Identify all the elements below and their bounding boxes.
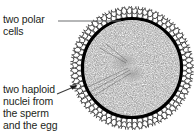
corona-cell bbox=[67, 71, 74, 76]
cytoplasm-region bbox=[84, 20, 180, 116]
corona-cell bbox=[131, 3, 136, 9]
leader-line-haploid-nuclei bbox=[57, 85, 78, 94]
label-two-polar-cells: two polar cells bbox=[3, 13, 45, 37]
corona-cell bbox=[135, 126, 140, 133]
corona-cell bbox=[138, 3, 143, 10]
corona-cell bbox=[128, 127, 133, 133]
corona-cell bbox=[191, 67, 194, 72]
corona-cell bbox=[67, 57, 74, 62]
figure-container: two polar cells two haploid nuclei from … bbox=[0, 0, 194, 135]
corona-cell bbox=[67, 64, 73, 69]
label-two-haploid-nuclei: two haploid nuclei from the sperm and th… bbox=[3, 83, 57, 131]
corona-cell bbox=[124, 3, 129, 10]
corona-cell bbox=[121, 126, 126, 133]
